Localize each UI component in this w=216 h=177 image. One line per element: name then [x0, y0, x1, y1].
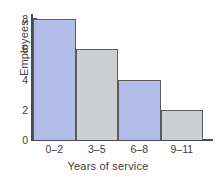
x-tick-label: 3–5: [76, 143, 119, 155]
bar-3–5: [76, 49, 119, 140]
bar-slot: [33, 19, 76, 140]
bar-9–11: [161, 110, 204, 140]
bar-slot: [76, 19, 119, 140]
y-tick-label: 6: [22, 43, 28, 55]
bar-6–8: [118, 80, 161, 141]
bar-slot: [118, 19, 161, 140]
y-tick-label: 0: [22, 134, 28, 146]
x-axis-ticks: 0–23–56–89–11: [33, 143, 203, 155]
y-tick-label: 4: [22, 74, 28, 86]
plot-area: 02468: [32, 19, 203, 140]
bar-slot: [161, 19, 204, 140]
x-tick-label: 0–2: [33, 143, 76, 155]
y-tick-label: 2: [22, 104, 28, 116]
x-tick-label: 9–11: [161, 143, 204, 155]
bar-chart: Employees 02468 0–23–56–89–11 Years of s…: [0, 0, 216, 177]
y-tick-label: 8: [22, 13, 28, 25]
bar-series: [33, 19, 203, 140]
x-axis-title: Years of service: [0, 160, 216, 172]
x-tick-label: 6–8: [118, 143, 161, 155]
bar-0–2: [33, 19, 76, 140]
